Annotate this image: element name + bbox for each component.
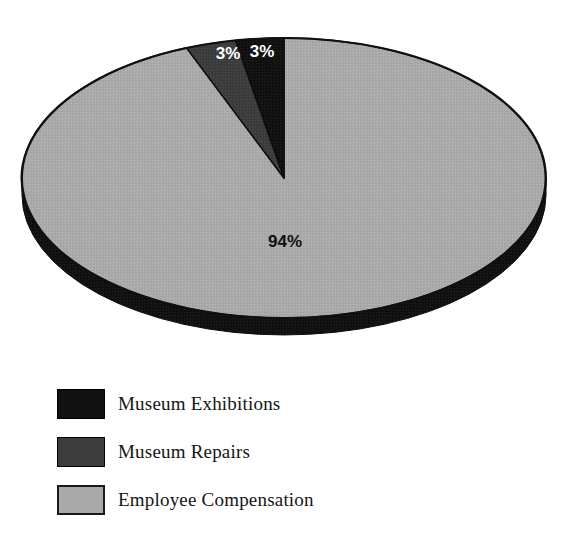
legend-swatch-museum-exhibitions <box>57 389 105 419</box>
slice-label-museum-repairs: 3% <box>216 44 241 63</box>
chart-legend: Museum Exhibitions Museum Repairs Employ… <box>57 380 517 524</box>
legend-item-museum-exhibitions[interactable]: Museum Exhibitions <box>57 380 517 428</box>
legend-swatch-museum-repairs <box>57 437 105 467</box>
legend-label-museum-repairs: Museum Repairs <box>118 441 250 463</box>
legend-item-employee-compensation[interactable]: Employee Compensation <box>57 476 517 524</box>
slice-label-museum-exhibitions: 3% <box>250 42 275 61</box>
legend-swatch-employee-compensation <box>57 485 105 515</box>
pie-chart: 3% 3% 94% Museum Exhibitions Museum Repa… <box>0 0 568 536</box>
legend-label-employee-compensation: Employee Compensation <box>118 489 314 511</box>
slice-label-employee-compensation: 94% <box>268 232 302 251</box>
legend-label-museum-exhibitions: Museum Exhibitions <box>118 393 280 415</box>
legend-item-museum-repairs[interactable]: Museum Repairs <box>57 428 517 476</box>
pie-graphic: 3% 3% 94% <box>0 0 568 360</box>
